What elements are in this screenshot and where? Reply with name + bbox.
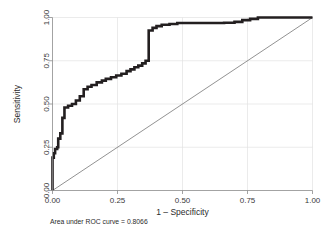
x-tick-label: 0.75	[240, 196, 256, 205]
x-tick-label: 1.00	[305, 196, 321, 205]
y-tick-label: 0.75	[42, 52, 51, 68]
y-axis-title: Sensitivity	[12, 84, 22, 123]
y-tick-label: 1.00	[42, 9, 51, 25]
x-tick-label: 0.25	[110, 196, 126, 205]
y-tick-label: 0.50	[42, 96, 51, 112]
roc-chart-canvas: 0.000.250.500.751.00 0.000.250.500.751.0…	[0, 0, 335, 243]
x-tick-label: 0.50	[175, 196, 191, 205]
x-axis-title: 1 – Specificity	[156, 207, 209, 217]
roc-figure: 0.000.250.500.751.00 0.000.250.500.751.0…	[0, 0, 335, 243]
y-tick-label: 0.00	[42, 182, 51, 198]
y-tick-label: 0.25	[42, 139, 51, 155]
auc-caption: Area under ROC curve = 0.8066	[50, 218, 148, 225]
